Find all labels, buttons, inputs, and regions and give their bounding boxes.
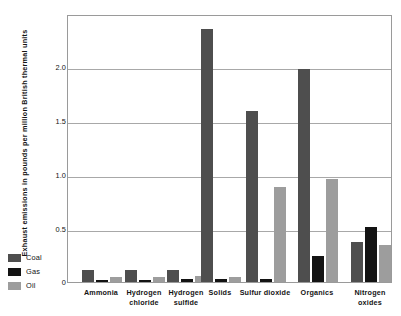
x-label-line2: sulfide (146, 298, 226, 308)
y-tick-0: 0 (40, 279, 66, 287)
x-label-nitrogen-oxides: Nitrogenoxides (330, 288, 401, 307)
bar-group-solids (201, 16, 241, 282)
bar-group-sulfur-dioxide (246, 16, 286, 282)
bar-hydrogen-chloride-oil[interactable] (153, 277, 165, 282)
y-tick-2.0: 2.0 (40, 64, 66, 72)
legend-swatch-coal (8, 254, 21, 262)
x-label-line2: oxides (330, 298, 401, 308)
bar-hydrogen-sulfide-coal[interactable] (167, 270, 179, 282)
emissions-bar-chart: Exhaust emissions in pounds per million … (0, 0, 401, 316)
bar-ammonia-gas[interactable] (96, 280, 108, 282)
bar-group-hydrogen-chloride (125, 16, 165, 282)
bar-sulfur-dioxide-oil[interactable] (274, 187, 286, 282)
bar-solids-gas[interactable] (215, 279, 227, 282)
y-tick-1.0: 1.0 (40, 172, 66, 180)
bar-hydrogen-chloride-gas[interactable] (139, 280, 151, 282)
bar-group-ammonia (82, 16, 122, 282)
bar-organics-coal[interactable] (298, 69, 310, 282)
legend-label-oil: Oil (26, 282, 35, 290)
legend-item-oil[interactable]: Oil (8, 279, 42, 292)
bar-organics-oil[interactable] (326, 179, 338, 282)
bar-ammonia-coal[interactable] (82, 270, 94, 282)
bar-hydrogen-chloride-coal[interactable] (125, 270, 137, 282)
legend-label-coal: Coal (26, 254, 42, 262)
legend-label-gas: Gas (26, 268, 40, 276)
plot-area (67, 15, 392, 283)
bar-group-nitrogen-oxides (351, 16, 391, 282)
y-axis-title: Exhaust emissions in pounds per million … (20, 37, 29, 257)
x-label-line1: Nitrogen (330, 288, 401, 298)
legend-swatch-gas (8, 268, 21, 276)
bar-organics-gas[interactable] (312, 256, 324, 282)
bar-nitrogen-oxides-oil[interactable] (379, 245, 391, 282)
legend-item-coal[interactable]: Coal (8, 251, 42, 264)
bar-sulfur-dioxide-gas[interactable] (260, 279, 272, 282)
bar-nitrogen-oxides-coal[interactable] (351, 242, 363, 282)
y-tick-1.5: 1.5 (40, 118, 66, 126)
bar-solids-coal[interactable] (201, 29, 213, 282)
bar-solids-oil[interactable] (229, 277, 241, 282)
y-tick-0.5: 0.5 (40, 226, 66, 234)
legend-swatch-oil (8, 282, 21, 290)
bar-ammonia-oil[interactable] (110, 277, 122, 282)
bar-sulfur-dioxide-coal[interactable] (246, 111, 258, 282)
legend-item-gas[interactable]: Gas (8, 265, 42, 278)
bar-group-organics (298, 16, 338, 282)
legend: Coal Gas Oil (8, 251, 42, 293)
bar-hydrogen-sulfide-gas[interactable] (181, 279, 193, 282)
bar-nitrogen-oxides-gas[interactable] (365, 227, 377, 282)
